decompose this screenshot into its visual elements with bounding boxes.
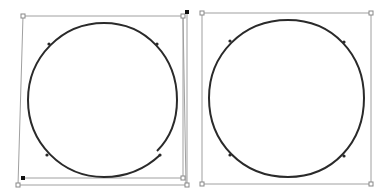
anchor-point-icon[interactable] bbox=[45, 153, 48, 156]
selected-handle-top-right-icon[interactable] bbox=[185, 10, 189, 14]
handle-top-left-icon[interactable] bbox=[200, 11, 204, 15]
handle-bottom-right-icon[interactable] bbox=[369, 182, 373, 186]
anchor-point-icon[interactable] bbox=[47, 42, 50, 45]
handle-top-right-icon[interactable] bbox=[181, 14, 185, 18]
left-open-circle-path[interactable] bbox=[28, 23, 177, 177]
handle-bottom-left-icon[interactable] bbox=[200, 182, 204, 186]
handle-bottom-left-icon[interactable] bbox=[16, 183, 20, 187]
right-closed-circle-path[interactable] bbox=[209, 20, 364, 177]
anchor-point-icon[interactable] bbox=[158, 153, 161, 156]
anchor-point-icon[interactable] bbox=[228, 153, 231, 156]
handle-inner-bottom-right-icon[interactable] bbox=[181, 176, 185, 180]
anchor-point-icon[interactable] bbox=[342, 40, 345, 43]
anchor-point-icon[interactable] bbox=[155, 42, 158, 45]
handle-top-left-icon[interactable] bbox=[21, 14, 25, 18]
right-figure bbox=[200, 11, 373, 186]
illustration-canvas bbox=[0, 0, 389, 194]
right-bounding-box[interactable] bbox=[202, 13, 371, 184]
anchor-point-icon[interactable] bbox=[228, 39, 231, 42]
selected-handle-bottom-left-icon[interactable] bbox=[21, 176, 25, 180]
left-transform-box[interactable] bbox=[18, 16, 186, 185]
handle-bottom-right-icon[interactable] bbox=[185, 183, 189, 187]
handle-top-right-icon[interactable] bbox=[369, 11, 373, 15]
left-figure bbox=[16, 10, 189, 187]
anchor-point-icon[interactable] bbox=[342, 154, 345, 157]
